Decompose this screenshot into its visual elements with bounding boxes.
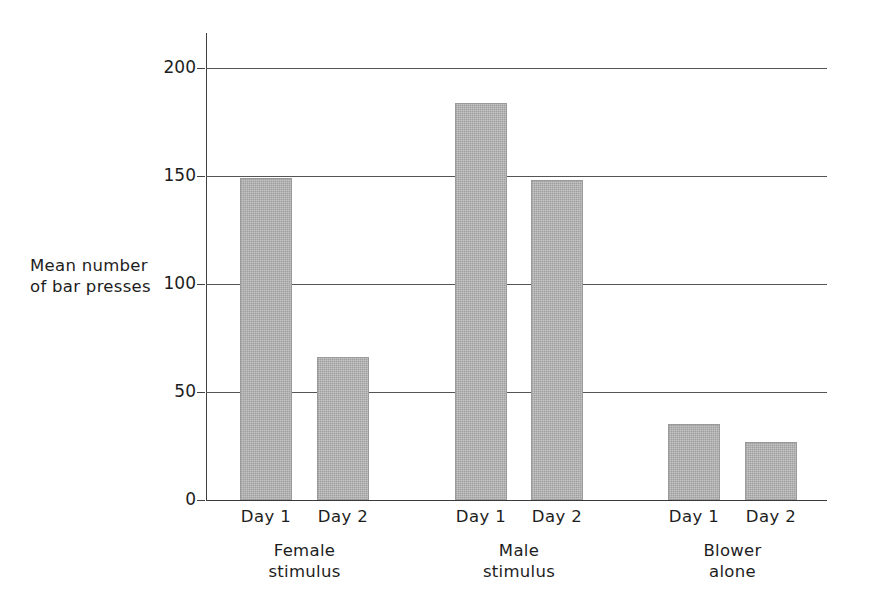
bar [745,442,797,500]
y-axis-tick [197,176,205,177]
bar [240,178,292,500]
bar [531,180,583,500]
x-tick-label: Day 2 [517,508,597,526]
bar [668,424,720,500]
y-axis-tick [197,500,205,501]
group-caption: Female stimulus [215,540,395,582]
y-tick-label: 0 [136,491,196,508]
bar-chart-figure: Mean number of bar presses 050100150200 … [0,0,875,606]
group-caption: Blower alone [643,540,823,582]
y-axis-tick [197,68,205,69]
gridline [206,176,827,177]
bar [317,357,369,500]
bar [455,103,507,500]
y-tick-label: 150 [136,167,196,184]
gridline [206,68,827,69]
group-caption: Male stimulus [429,540,609,582]
y-tick-label: 100 [136,275,196,292]
y-tick-label: 200 [136,59,196,76]
y-axis-tick [197,284,205,285]
x-tick-label: Day 2 [303,508,383,526]
plot-area [206,68,827,500]
x-tick-label: Day 1 [654,508,734,526]
axis-baseline [206,500,827,501]
x-tick-label: Day 1 [226,508,306,526]
y-axis-tick [197,392,205,393]
gridline [206,284,827,285]
x-tick-label: Day 1 [441,508,521,526]
x-tick-label: Day 2 [731,508,811,526]
y-tick-label: 50 [136,383,196,400]
gridline [206,392,827,393]
